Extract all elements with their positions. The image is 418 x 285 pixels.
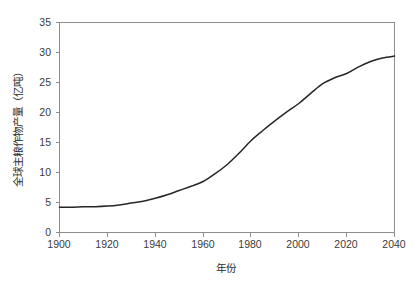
x-tick-label-2020: 2020 [334, 238, 358, 250]
y-tick-label-10: 10 [39, 166, 51, 178]
y-tick-label-35: 35 [39, 16, 51, 28]
x-tick-label-1920: 1920 [95, 238, 119, 250]
y-tick-label-20: 20 [39, 106, 51, 118]
x-tick-label-1960: 1960 [191, 238, 215, 250]
x-tick-label-1900: 1900 [47, 238, 71, 250]
line-chart-svg: 0 5 10 15 20 25 30 35 1900 1920 1940 196… [0, 0, 418, 285]
plot-area-background [59, 22, 394, 232]
chart-figure: 0 5 10 15 20 25 30 35 1900 1920 1940 196… [0, 0, 418, 285]
x-tick-label-1940: 1940 [143, 238, 167, 250]
y-tick-label-0: 0 [45, 226, 51, 238]
y-axis-title: 全球主粮作物产量（亿吨） [12, 67, 24, 187]
x-axis-title: 年份 [216, 262, 237, 274]
x-tick-label-2040: 2040 [382, 238, 406, 250]
y-tick-label-25: 25 [39, 76, 51, 88]
y-tick-label-30: 30 [39, 46, 51, 58]
y-tick-label-5: 5 [45, 196, 51, 208]
x-tick-label-2000: 2000 [286, 238, 310, 250]
x-tick-label-1980: 1980 [238, 238, 262, 250]
y-tick-label-15: 15 [39, 136, 51, 148]
